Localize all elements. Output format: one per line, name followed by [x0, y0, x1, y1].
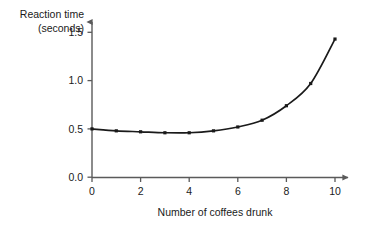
- y-tick-label-1-0: 1.0: [68, 74, 83, 86]
- y-tick-label-0-5: 0.5: [68, 123, 83, 135]
- x-tick-label-0: 0: [89, 185, 95, 197]
- series-markers: [90, 37, 336, 134]
- data-point: [163, 131, 166, 134]
- y-tick-label-0-0: 0.0: [68, 171, 83, 183]
- series-line: [92, 39, 335, 133]
- data-point: [188, 131, 191, 134]
- data-point: [90, 127, 93, 130]
- x-tick-label-8: 8: [283, 185, 289, 197]
- x-tick-label-4: 4: [186, 185, 192, 197]
- reaction-time-line-chart: 1.5 1.0 0.5 0.0 0 2 4 6 8 10 Reaction ti…: [0, 0, 382, 233]
- x-tick-label-6: 6: [235, 185, 241, 197]
- data-point: [236, 125, 239, 128]
- data-point: [285, 104, 288, 107]
- x-axis-title: Number of coffees drunk: [158, 206, 274, 218]
- x-tick-label-10: 10: [329, 185, 341, 197]
- x-tick-label-2: 2: [138, 185, 144, 197]
- data-point: [212, 129, 215, 132]
- data-point: [333, 37, 336, 40]
- data-point: [115, 129, 118, 132]
- data-point: [309, 82, 312, 85]
- data-point: [139, 130, 142, 133]
- chart-container: 1.5 1.0 0.5 0.0 0 2 4 6 8 10 Reaction ti…: [0, 0, 382, 233]
- y-axis-title-line2: (seconds): [38, 22, 84, 34]
- y-axis-title-line1: Reaction time: [20, 8, 84, 20]
- data-point: [261, 119, 264, 122]
